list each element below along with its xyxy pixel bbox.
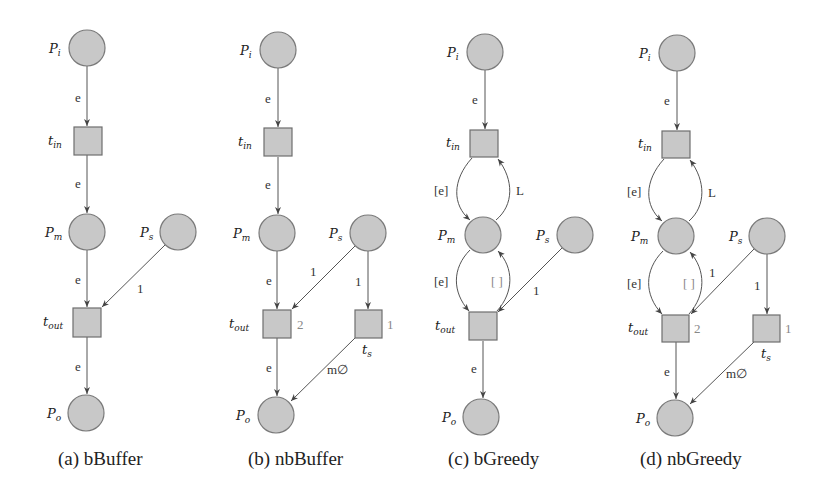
node-label-tin: tin	[446, 135, 460, 152]
place-pi	[467, 34, 503, 70]
place-po	[258, 397, 294, 433]
arc-ps-tout	[498, 248, 562, 312]
place-po	[68, 395, 104, 431]
arc-label: e	[75, 272, 81, 287]
node-label-ps: Ps	[139, 225, 154, 242]
transition-tin	[264, 128, 292, 156]
node-label-tin: tin	[638, 136, 652, 153]
node-label-ts: ts	[362, 342, 372, 359]
arc-label: e	[75, 90, 81, 105]
node-label-pm: Pm	[44, 225, 62, 242]
priority-tout: 2	[297, 317, 304, 332]
node-label-tout: tout	[43, 314, 63, 331]
caption-a: (a) bBuffer	[58, 448, 143, 470]
priority-ts: 1	[387, 317, 394, 332]
place-po	[657, 400, 693, 436]
subfigure-d-nbgreedy: e [e] L [e] [ ] 1 1 e m∅ 2 1 Pi Pm Ps Po…	[627, 35, 792, 470]
arc-label: e	[471, 361, 477, 376]
arc-label: 1	[355, 274, 362, 289]
arc-pm-tin	[496, 159, 510, 220]
arc-label: 1	[709, 265, 716, 280]
transition-tout	[469, 312, 497, 340]
arc-label: e	[664, 364, 670, 379]
arc-label: 1	[137, 281, 144, 296]
node-label-po: Po	[635, 411, 651, 428]
caption-b: (b) nbBuffer	[248, 448, 344, 470]
arc-label: e	[472, 92, 478, 107]
place-ps	[557, 217, 593, 253]
arc-label: L	[516, 183, 524, 198]
node-label-pi: Pi	[446, 45, 459, 62]
subfigure-c-bgreedy: e [e] L [e] [ ] 1 e Pi Pm Ps Po tin tout…	[434, 34, 593, 470]
node-label-pm: Pm	[630, 229, 648, 246]
transition-tout	[73, 308, 101, 337]
arc-ps-tout	[102, 245, 165, 307]
arc-tin-pm	[457, 158, 472, 220]
place-pm	[465, 217, 501, 253]
arc-label: L	[708, 185, 716, 200]
arc-label: e	[75, 359, 81, 374]
arc-label: [ ]	[491, 274, 503, 289]
place-pi	[260, 32, 296, 68]
arc-label: m∅	[726, 366, 747, 381]
priority-tout: 2	[694, 321, 701, 336]
node-label-po: Po	[46, 406, 62, 423]
arc-label: [e]	[627, 276, 641, 291]
node-label-tin: tin	[48, 133, 62, 150]
caption-d: (d) nbGreedy	[640, 448, 742, 470]
transition-ts	[753, 315, 780, 342]
node-label-pm: Pm	[232, 226, 250, 243]
arc-tin-pm	[649, 159, 664, 221]
transition-ts	[355, 310, 382, 338]
arc-label: e	[664, 93, 670, 108]
node-label-tout: tout	[628, 320, 648, 337]
arc-label: 1	[310, 264, 317, 279]
node-label-tin: tin	[238, 134, 252, 151]
place-po	[463, 399, 499, 435]
place-pm	[658, 218, 694, 254]
arc-pm-tout	[456, 250, 470, 311]
node-label-tout: tout	[435, 318, 455, 335]
arc-ps-tout	[292, 246, 355, 309]
transition-tin	[74, 127, 102, 155]
transition-tout	[263, 310, 291, 338]
node-label-ps: Ps	[728, 229, 743, 246]
place-ps	[350, 215, 386, 251]
arc-label: [e]	[434, 183, 448, 198]
arc-label: e	[265, 91, 271, 106]
arc-label: e	[266, 273, 272, 288]
node-label-ts: ts	[761, 346, 771, 363]
arc-label: m∅	[327, 362, 348, 377]
arc-label: 1	[754, 278, 761, 293]
arc-label: [e]	[627, 184, 641, 199]
caption-c: (c) bGreedy	[448, 448, 540, 470]
node-label-pi: Pi	[638, 46, 651, 63]
place-pm	[259, 215, 295, 251]
node-label-pm: Pm	[437, 228, 455, 245]
node-label-ps: Ps	[535, 228, 550, 245]
place-ps	[160, 214, 196, 250]
node-label-pi: Pi	[239, 43, 252, 60]
arc-pm-tin	[689, 160, 702, 221]
node-label-ps: Ps	[328, 226, 343, 243]
node-label-tout: tout	[229, 316, 249, 333]
node-label-po: Po	[441, 410, 457, 427]
arc-label: 1	[533, 283, 540, 298]
priority-ts: 1	[785, 321, 792, 336]
place-pm	[69, 214, 105, 250]
arc-label: [e]	[434, 274, 448, 289]
transition-tin	[470, 130, 498, 157]
transition-tout	[662, 315, 689, 342]
arc-label: e	[265, 177, 271, 192]
subfigure-b-nbbuffer: e e e 1 1 e m∅ 2 1 Pi Pm Ps Po tin tout …	[229, 32, 394, 470]
place-pi	[69, 30, 105, 66]
node-label-po: Po	[235, 408, 251, 425]
arc-pm-tout	[649, 251, 663, 314]
arc-label: [ ]	[683, 276, 695, 291]
subfigure-a-bbuffer: e e e 1 e Pi Pm Ps Po tin tout (a) bBuff…	[43, 30, 196, 470]
arc-label: e	[266, 360, 272, 375]
arc-ps-tout	[691, 249, 754, 314]
place-pi	[659, 35, 695, 71]
transition-tin	[662, 131, 690, 158]
place-ps	[749, 218, 785, 254]
